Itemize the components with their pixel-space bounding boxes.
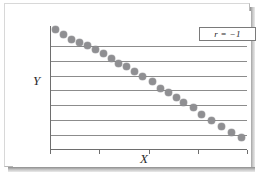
scatter-point bbox=[165, 89, 172, 96]
gridline-6 bbox=[51, 46, 247, 47]
x-axis-label: X bbox=[140, 151, 148, 167]
gridline-1 bbox=[51, 120, 247, 121]
legend-label: r = −1 bbox=[214, 29, 240, 39]
legend-box: r = −1 bbox=[199, 27, 256, 41]
scatter-point bbox=[60, 31, 67, 38]
scatter-point bbox=[173, 94, 180, 101]
x-tick-4 bbox=[247, 150, 248, 154]
scatter-point bbox=[52, 26, 59, 33]
scatter-point bbox=[208, 117, 215, 124]
y-axis-label: Y bbox=[33, 73, 40, 89]
scatter-point bbox=[157, 85, 164, 92]
scatter-point bbox=[139, 73, 146, 80]
scatter-point bbox=[100, 50, 107, 57]
figure-frame: Y X r = −1 bbox=[4, 3, 250, 167]
scatter-point bbox=[190, 104, 197, 111]
gridline-2 bbox=[51, 105, 247, 106]
scatter-point bbox=[218, 123, 225, 130]
x-tick-3 bbox=[198, 150, 199, 154]
scatter-point bbox=[149, 78, 156, 85]
figure-canvas: Y X r = −1 bbox=[13, 11, 251, 167]
scatter-point bbox=[115, 60, 122, 67]
y-axis-line bbox=[50, 26, 51, 150]
gridline-3 bbox=[51, 90, 247, 91]
figure-drop-shadow-bottom bbox=[8, 167, 255, 172]
scatter-point bbox=[238, 134, 245, 141]
scatter-point bbox=[123, 63, 130, 70]
plot-area bbox=[50, 26, 247, 150]
x-tick-2 bbox=[149, 150, 150, 154]
scatter-point bbox=[131, 68, 138, 75]
scatter-point bbox=[92, 46, 99, 53]
scatter-point bbox=[84, 42, 91, 49]
gridline-5 bbox=[51, 61, 247, 62]
scatter-point bbox=[108, 55, 115, 62]
gridline-4 bbox=[51, 76, 247, 77]
scatter-point bbox=[228, 129, 235, 136]
scatter-point bbox=[198, 111, 205, 118]
scatter-point bbox=[68, 36, 75, 43]
scatter-point bbox=[76, 39, 83, 46]
gridline-0 bbox=[51, 135, 247, 136]
x-tick-1 bbox=[99, 150, 100, 154]
x-tick-0 bbox=[50, 150, 51, 154]
